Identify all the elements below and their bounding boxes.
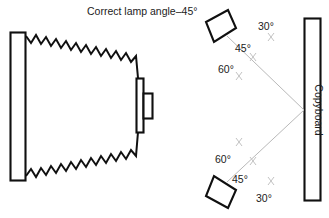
- angle-label-bottom-45: 45°: [232, 173, 248, 185]
- lamp-bulb-side-view: [144, 94, 153, 119]
- beam-edge-lower: [26, 132, 138, 177]
- projection-board: [11, 33, 26, 181]
- top-tick-marks: [236, 33, 274, 80]
- diagram-canvas: Correct lamp angle–45° Copyboard: [0, 0, 329, 218]
- angle-label-bottom-30: 30°: [256, 192, 272, 204]
- angle-label-bottom-60: 60°: [215, 153, 231, 165]
- bottom-beam-line: [227, 110, 304, 182]
- angle-label-top-45: 45°: [235, 42, 251, 54]
- tick-top-30: [268, 33, 274, 41]
- angle-label-top-60: 60°: [218, 63, 234, 75]
- right-panel-group: Copyboard 30° 45° 60°: [206, 10, 325, 208]
- tick-top-45: [250, 53, 256, 61]
- diagram-title: Correct lamp angle–45°: [87, 5, 197, 17]
- top-lamp: [206, 10, 236, 42]
- tick-bottom-60: [236, 138, 242, 146]
- tick-top-60: [236, 72, 242, 80]
- left-panel-group: [11, 33, 153, 181]
- angle-label-top-30: 30°: [258, 20, 274, 32]
- beam-edge-upper: [26, 35, 138, 78]
- tick-bottom-30: [268, 177, 274, 185]
- copyboard-label: Copyboard: [313, 84, 325, 136]
- lamp-body-side-view: [137, 79, 144, 133]
- lamp-angle-diagram: Correct lamp angle–45° Copyboard: [0, 0, 329, 218]
